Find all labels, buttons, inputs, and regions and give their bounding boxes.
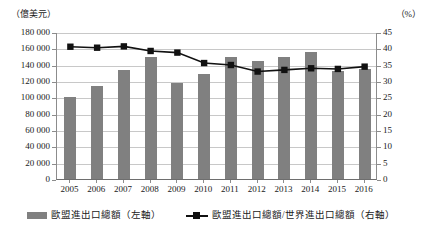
line-marker [147, 48, 153, 54]
x-tick-mark [176, 180, 177, 183]
line-marker [174, 49, 180, 55]
x-tick-mark [150, 180, 151, 183]
right-tick-label: 45 [383, 28, 423, 37]
x-tick-mark [283, 180, 284, 183]
legend-label-line: 歐盟進出口總額/世界進出口總額（右軸） [212, 209, 395, 222]
legend-label-bar: 歐盟進出口總額（左軸） [51, 209, 161, 222]
x-axis-label: 2016 [348, 184, 380, 195]
left-tick-label: 20 000 [0, 159, 50, 168]
line-marker [121, 43, 127, 49]
left-tick-label: 0 [0, 175, 50, 184]
line-marker [254, 68, 260, 74]
line-marker [228, 62, 234, 68]
line-path [70, 46, 364, 71]
right-tick-label: 15 [383, 126, 423, 135]
right-tick-label: 30 [383, 77, 423, 86]
x-tick-mark [203, 180, 204, 183]
x-tick-mark [123, 180, 124, 183]
left-tick-label: 140 000 [0, 61, 50, 70]
right-tick-label: 10 [383, 142, 423, 151]
x-tick-mark [337, 180, 338, 183]
left-tick-label: 100 000 [0, 93, 50, 102]
right-tick-label: 20 [383, 110, 423, 119]
line-marker [94, 45, 100, 51]
line-marker [361, 63, 367, 69]
x-tick-mark [364, 180, 365, 183]
left-tick-mark [52, 180, 56, 181]
x-tick-mark [69, 180, 70, 183]
right-tick-label: 5 [383, 159, 423, 168]
line-marker [201, 60, 207, 66]
x-tick-mark [230, 180, 231, 183]
right-tick-label: 40 [383, 44, 423, 53]
plot-area [56, 33, 377, 180]
legend-entry-line: 歐盟進出口總額/世界進出口總額（右軸） [186, 209, 395, 222]
line-marker [67, 44, 73, 50]
right-tick-label: 35 [383, 61, 423, 70]
chart-legend: 歐盟進出口總額（左軸） 歐盟進出口總額/世界進出口總額（右軸） [0, 206, 429, 228]
line-marker [308, 65, 314, 71]
bar-swatch-icon [27, 212, 47, 219]
right-tick-label: 25 [383, 93, 423, 102]
x-tick-mark [310, 180, 311, 183]
legend-entry-bar: 歐盟進出口總額（左軸） [27, 209, 161, 222]
line-marker [281, 67, 287, 73]
x-tick-mark [96, 180, 97, 183]
left-tick-label: 160 000 [0, 44, 50, 53]
chart-container: （億美元） （%） 180 000160 000140 000120 00010… [0, 0, 429, 239]
line-marker [335, 66, 341, 72]
left-tick-label: 180 000 [0, 28, 50, 37]
right-tick-mark [377, 180, 381, 181]
left-tick-label: 120 000 [0, 77, 50, 86]
line-markers [67, 43, 368, 75]
line-marker-swatch-icon [186, 211, 208, 220]
right-axis-unit-label: （%） [396, 9, 422, 20]
line-series [57, 33, 378, 180]
left-axis-unit-label: （億美元） [11, 9, 56, 20]
x-tick-mark [257, 180, 258, 183]
right-tick-label: 0 [383, 175, 423, 184]
left-tick-label: 60 000 [0, 126, 50, 135]
left-tick-label: 80 000 [0, 110, 50, 119]
left-tick-label: 40 000 [0, 142, 50, 151]
